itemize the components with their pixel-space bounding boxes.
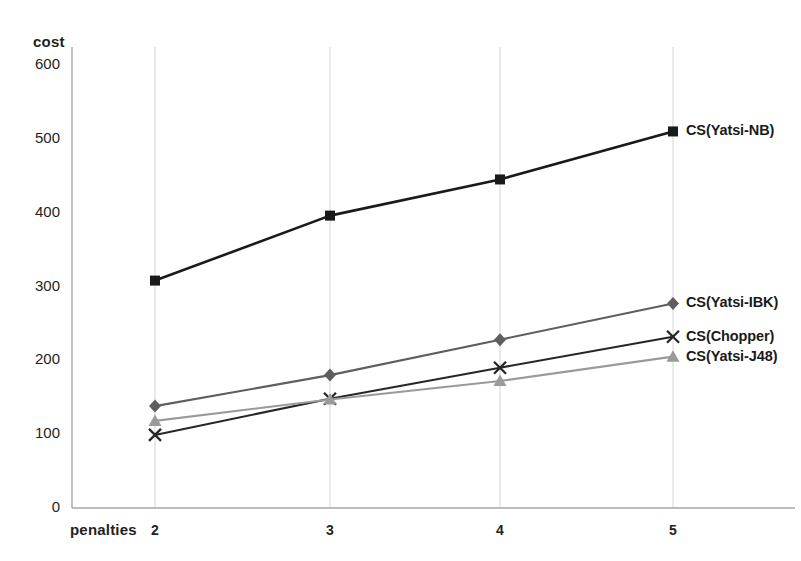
series-label-csyatsi-nb: CS(Yatsi-NB)	[686, 122, 774, 138]
y-tick-label: 600	[20, 55, 60, 72]
series-label-csyatsi-ibk: CS(Yatsi-IBK)	[686, 294, 778, 310]
series-csyatsi-nb	[150, 126, 678, 285]
series-cschopper	[149, 331, 679, 441]
y-tick-label: 100	[20, 424, 60, 441]
y-tick-label: 500	[20, 129, 60, 146]
series-line	[155, 357, 673, 421]
x-tick-label-5: 5	[658, 522, 688, 538]
x-tick-label-3: 3	[315, 522, 345, 538]
series-label-csyatsi-j48: CS(Yatsi-J48)	[686, 348, 777, 364]
data-point-marker-square	[150, 276, 160, 286]
x-tick-label-4: 4	[485, 522, 515, 538]
x-tick-label-2: 2	[140, 522, 170, 538]
data-point-marker-triangle	[667, 350, 680, 362]
data-point-marker-square	[495, 174, 505, 184]
y-tick-label: 300	[20, 277, 60, 294]
data-point-marker-diamond	[494, 333, 506, 346]
y-axis-title: cost	[33, 33, 65, 50]
data-point-marker-diamond	[667, 297, 679, 310]
data-point-marker-diamond	[324, 369, 336, 382]
y-tick-label: 200	[20, 350, 60, 367]
gridlines	[155, 47, 673, 508]
series-line	[155, 131, 673, 280]
series-line	[155, 337, 673, 435]
axis-lines	[72, 47, 795, 508]
y-tick-label: 400	[20, 203, 60, 220]
chart-container: cost penalties 0100200300400500600 2345 …	[0, 0, 801, 561]
series-label-cschopper: CS(Chopper)	[686, 328, 774, 344]
data-point-marker-square	[325, 211, 335, 221]
series-csyatsi-ibk	[149, 297, 679, 413]
chart-plot-area	[0, 0, 801, 561]
x-axis-title: penalties	[70, 521, 137, 538]
y-tick-label: 0	[20, 498, 60, 515]
data-point-marker-square	[668, 126, 678, 136]
series-csyatsi-j48	[149, 350, 680, 426]
data-point-marker-diamond	[149, 400, 161, 413]
